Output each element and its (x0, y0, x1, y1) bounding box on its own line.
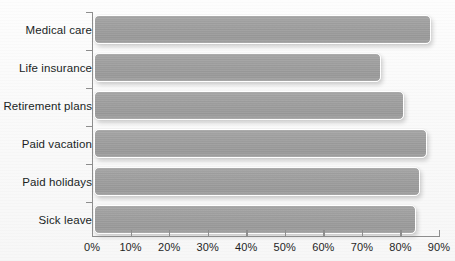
category-label-life-insurance: Life insurance (19, 62, 92, 74)
x-axis-tick (362, 230, 363, 237)
x-axis-tick (439, 230, 440, 237)
x-axis-tick (92, 230, 93, 237)
x-axis-tick-label: 50% (274, 241, 296, 253)
category-label-sick-leave: Sick leave (39, 214, 92, 226)
bar-chart: Medical care Life insurance Retirement p… (0, 0, 455, 261)
bar-retirement-plans (94, 91, 404, 120)
x-axis-tick-label: 0% (84, 241, 100, 253)
y-axis-tick (86, 12, 93, 13)
x-axis-tick-label: 40% (235, 241, 257, 253)
x-axis-tick (169, 230, 170, 237)
y-axis-tick (86, 50, 93, 51)
x-axis-line (92, 236, 440, 237)
x-axis-tick (285, 230, 286, 237)
category-label-retirement-plans: Retirement plans (3, 100, 92, 112)
y-axis-tick (86, 126, 93, 127)
x-axis-tick-label: 60% (312, 241, 334, 253)
y-axis-tick (86, 164, 93, 165)
x-axis-tick-label: 80% (389, 241, 411, 253)
y-axis-tick (86, 202, 93, 203)
bar-medical-care (94, 15, 431, 44)
category-label-paid-vacation: Paid vacation (22, 138, 92, 150)
x-axis-tick-label: 10% (119, 241, 141, 253)
bar-life-insurance (94, 53, 381, 82)
x-axis-tick (246, 230, 247, 237)
category-label-paid-holidays: Paid holidays (22, 176, 92, 188)
bar-paid-vacation (94, 129, 427, 158)
x-axis-tick-label: 70% (351, 241, 373, 253)
bar-paid-holidays (94, 167, 420, 196)
category-label-medical-care: Medical care (26, 24, 92, 36)
x-axis-tick (208, 230, 209, 237)
y-axis-tick (86, 88, 93, 89)
bar-sick-leave (94, 205, 416, 234)
x-axis-tick-label: 30% (196, 241, 218, 253)
x-axis-tick (131, 230, 132, 237)
x-axis-tick (323, 230, 324, 237)
x-axis-tick (400, 230, 401, 237)
x-axis-tick-label: 90% (428, 241, 450, 253)
x-axis-tick-label: 20% (158, 241, 180, 253)
